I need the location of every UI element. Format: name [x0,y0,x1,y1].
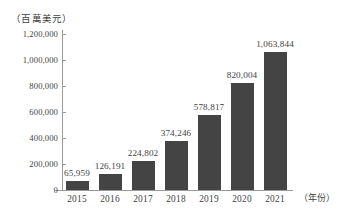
bar-value-label: 374,246 [161,128,192,138]
y-axis-tick [62,34,66,35]
y-axis-tick [62,164,66,165]
y-axis-tick [62,86,66,87]
bar[interactable] [165,141,188,190]
x-axis-category-label: 2015 [67,194,87,204]
y-axis-tick-label: 400,000 [29,133,58,143]
bar[interactable] [198,115,221,190]
bar-value-label: 126,191 [95,161,126,171]
bar[interactable] [264,52,287,190]
x-axis-category-label: 2018 [166,194,186,204]
y-axis-tick-label: 1,000,000 [23,55,58,65]
bar-value-label: 820,004 [227,70,258,80]
x-axis-title: （年份） [299,191,335,204]
y-axis-tick [62,190,66,191]
bar[interactable] [231,83,254,190]
x-axis-category-label: 2017 [133,194,153,204]
bar-value-label: 578,817 [194,102,225,112]
y-axis-tick-label: 800,000 [29,81,58,91]
bar[interactable] [66,181,89,190]
x-axis-category-label: 2019 [199,194,219,204]
x-axis-category-label: 2021 [265,194,285,204]
y-axis-tick [62,112,66,113]
y-axis-tick [62,138,66,139]
y-axis-tick-label: 1,200,000 [23,29,58,39]
bar-chart: （百萬美元） 1,200,0001,000,000800,000600,0004… [0,0,340,217]
y-axis-tick-label: 0 [54,185,58,195]
bar[interactable] [132,161,155,190]
y-axis-tick-label: 600,000 [29,107,58,117]
y-axis-tick-label: 200,000 [29,159,58,169]
y-axis-line [62,30,63,191]
bar-value-label: 65,959 [64,168,90,178]
bar-value-label: 1,063,844 [256,39,294,49]
bar-value-label: 224,802 [128,148,159,158]
plot-area: 1,200,0001,000,000800,000600,000400,0002… [0,0,340,217]
x-axis-category-label: 2020 [232,194,252,204]
bar[interactable] [99,174,122,190]
y-axis-tick [62,60,66,61]
x-axis-line [55,190,293,191]
x-axis-category-label: 2016 [100,194,120,204]
